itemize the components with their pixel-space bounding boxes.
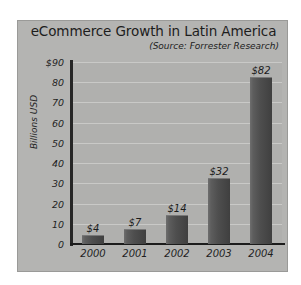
y-axis-tick-label: 20 — [52, 198, 64, 209]
y-axis-tick-label: 0 — [58, 239, 64, 250]
bar[interactable] — [208, 178, 230, 244]
x-axis-tick-label: 2002 — [164, 248, 189, 259]
y-axis-tick-labels: 01020304050607080$90 — [18, 62, 68, 244]
bar-value-label: $4 — [87, 223, 100, 234]
bars-layer: $4$7$14$32$82 — [72, 62, 282, 244]
bar[interactable] — [166, 215, 188, 244]
y-axis-title: Billions USD — [29, 82, 39, 162]
bar[interactable] — [82, 235, 104, 244]
bar-group: $4 — [82, 62, 104, 244]
y-axis-tick-label: 30 — [52, 178, 64, 189]
x-axis-tick-label: 2001 — [122, 248, 147, 259]
bar[interactable] — [124, 229, 146, 244]
bar-value-label: $7 — [129, 217, 142, 228]
chart-title-block: eCommerce Growth in Latin America (Sourc… — [18, 23, 288, 52]
chart-source-note: (Source: Forrester Research) — [24, 40, 283, 52]
bar[interactable] — [250, 77, 272, 244]
y-axis-tick-label: 10 — [52, 218, 64, 229]
bar-group: $32 — [208, 62, 230, 244]
y-axis-tick-label: 60 — [52, 117, 64, 128]
y-axis-tick-label: 80 — [52, 77, 64, 88]
y-axis-tick-label: 70 — [52, 97, 64, 108]
chart-panel: eCommerce Growth in Latin America (Sourc… — [17, 20, 288, 272]
x-axis-tick-label: 2003 — [206, 248, 231, 259]
bar-group: $14 — [166, 62, 188, 244]
page-title: eCommerce Growth in Latin America — [24, 23, 283, 40]
x-axis-tick-label: 2000 — [80, 248, 105, 259]
x-axis-tick-label: 2004 — [248, 248, 273, 259]
bar-group: $7 — [124, 62, 146, 244]
bar-group: $82 — [250, 62, 272, 244]
y-axis-tick-label: 40 — [52, 158, 64, 169]
bar-value-label: $82 — [251, 65, 270, 76]
y-axis-tick-label: 50 — [52, 137, 64, 148]
y-axis-tick-label: $90 — [46, 57, 64, 68]
bar-value-label: $32 — [209, 166, 228, 177]
bar-value-label: $14 — [167, 203, 186, 214]
x-axis-tick-labels: 20002001200220032004 — [72, 248, 282, 266]
